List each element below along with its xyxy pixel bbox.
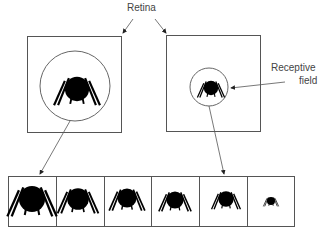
diagram-canvas — [0, 0, 318, 231]
retina-arrow-left — [123, 19, 133, 33]
receptive-field-label-line1: Receptive — [271, 62, 315, 74]
retina-panel-left — [28, 37, 122, 133]
retina-panel-right — [167, 36, 261, 132]
scale-sequence-strip — [7, 177, 294, 227]
retina-label: Retina — [127, 2, 156, 14]
retina-arrow-right — [155, 19, 166, 33]
receptive-field-label-line2: field — [299, 75, 317, 87]
